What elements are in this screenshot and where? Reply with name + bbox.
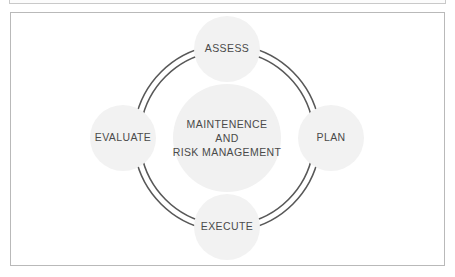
diagram-panel: MAINTENENCE AND RISK MANAGEMENT ASSESS P…	[10, 12, 445, 266]
cycle-diagram: MAINTENENCE AND RISK MANAGEMENT ASSESS P…	[11, 13, 446, 267]
node-label-evaluate: EVALUATE	[95, 131, 152, 143]
node-label-plan: PLAN	[316, 131, 345, 143]
center-label-line-1: MAINTENENCE	[187, 118, 268, 130]
cut-off-top-panel	[9, 0, 446, 4]
node-label-assess: ASSESS	[205, 42, 249, 54]
center-label-line-2: AND	[215, 132, 238, 144]
center-label-line-3: RISK MANAGEMENT	[173, 146, 282, 158]
node-label-execute: EXECUTE	[201, 220, 253, 232]
